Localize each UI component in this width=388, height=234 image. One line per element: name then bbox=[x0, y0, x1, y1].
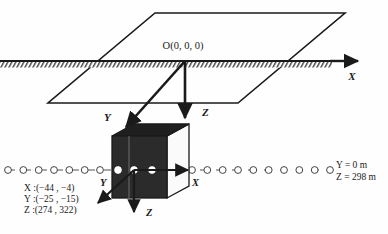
range-y-label: Y :(−25 , −15) bbox=[24, 194, 79, 205]
node-circle bbox=[281, 167, 288, 174]
line-value-labels: Y = 0 m Z = 298 m bbox=[336, 160, 377, 182]
coordinate-system-diagram: X O(0, 0, 0) Z Y bbox=[0, 0, 388, 234]
subvolume-range-labels: X :(−44 , −4) Y :(−25 , −15) Z :(274 , 3… bbox=[24, 183, 79, 216]
ground-surface bbox=[0, 61, 352, 68]
node-circle bbox=[66, 167, 73, 174]
node-circle bbox=[35, 167, 42, 174]
node-circle bbox=[204, 167, 211, 174]
cube-right-face bbox=[167, 124, 189, 198]
global-x-axis-label: X bbox=[347, 70, 356, 82]
figure-root: X O(0, 0, 0) Z Y bbox=[0, 0, 388, 234]
node-circle bbox=[265, 167, 272, 174]
subvolume-cube bbox=[112, 124, 189, 198]
local-y-axis-label: Y bbox=[100, 177, 108, 188]
inclined-plane bbox=[48, 13, 345, 103]
global-z-axis: Z bbox=[185, 61, 209, 118]
node-circle bbox=[81, 167, 88, 174]
global-y-axis-arrow bbox=[126, 61, 185, 127]
node-circle-on-cube bbox=[115, 167, 122, 174]
origin-label: O(0, 0, 0) bbox=[163, 40, 204, 52]
global-y-axis-label: Y bbox=[104, 111, 112, 123]
inclined-plane-outline bbox=[48, 13, 345, 103]
node-circle bbox=[97, 167, 104, 174]
global-y-axis: Y bbox=[104, 61, 185, 127]
global-x-axis: X bbox=[330, 61, 358, 82]
node-circle bbox=[296, 167, 303, 174]
node-circle bbox=[250, 167, 257, 174]
range-z-label: Z :(274 , 322) bbox=[24, 205, 77, 216]
global-z-axis-label: Z bbox=[201, 106, 209, 118]
range-x-label: X :(−44 , −4) bbox=[24, 183, 74, 194]
node-circle bbox=[51, 167, 58, 174]
ground-hatching bbox=[0, 62, 332, 68]
node-circle bbox=[20, 167, 27, 174]
node-circle bbox=[311, 167, 318, 174]
node-circle bbox=[327, 167, 334, 174]
local-x-axis-label: X bbox=[191, 177, 200, 188]
node-circle bbox=[235, 167, 242, 174]
node-circle bbox=[5, 167, 12, 174]
node-circle bbox=[219, 167, 226, 174]
line-value-y-label: Y = 0 m bbox=[336, 160, 368, 170]
line-value-z-label: Z = 298 m bbox=[336, 172, 377, 182]
local-z-axis-label: Z bbox=[145, 207, 153, 218]
